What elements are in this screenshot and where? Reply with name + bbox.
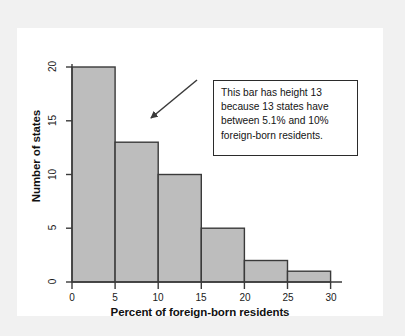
x-tick-label-30: 30	[319, 292, 343, 303]
x-tick-label-25: 25	[276, 292, 300, 303]
annotation-callout-text: This bar has height 13 because 13 states…	[221, 86, 351, 143]
x-tick-label-20: 20	[233, 292, 257, 303]
histogram-bar-10-15	[158, 175, 201, 283]
plot-panel: This bar has height 13 because 13 states…	[17, 28, 383, 316]
x-tick-label-5: 5	[103, 292, 127, 303]
x-axis-title: Percent of foreign-born residents	[17, 306, 383, 318]
y-tick-label-10: 10	[47, 163, 58, 185]
x-axis	[72, 282, 342, 289]
x-tick-label-15: 15	[189, 292, 213, 303]
y-axis-title: Number of states	[30, 76, 42, 236]
histogram-bar-20-25	[244, 261, 287, 283]
histogram-plot-svg	[17, 28, 383, 316]
annotation-callout-box: This bar has height 13 because 13 states…	[213, 80, 358, 156]
y-tick-label-15: 15	[47, 110, 58, 132]
callout-arrow-icon	[151, 80, 197, 118]
x-tick-label-0: 0	[60, 292, 84, 303]
y-tick-label-0: 0	[47, 271, 58, 293]
y-axis	[66, 64, 72, 282]
histogram-bar-15-20	[201, 228, 244, 282]
histogram-bar-5-10	[115, 142, 158, 282]
histogram-bar-25-30	[288, 271, 331, 282]
histogram-figure: This bar has height 13 because 13 states…	[0, 0, 405, 336]
histogram-bar-0-5	[72, 67, 115, 282]
x-tick-label-10: 10	[146, 292, 170, 303]
y-tick-label-5: 5	[47, 217, 58, 239]
y-tick-label-20: 20	[47, 56, 58, 78]
